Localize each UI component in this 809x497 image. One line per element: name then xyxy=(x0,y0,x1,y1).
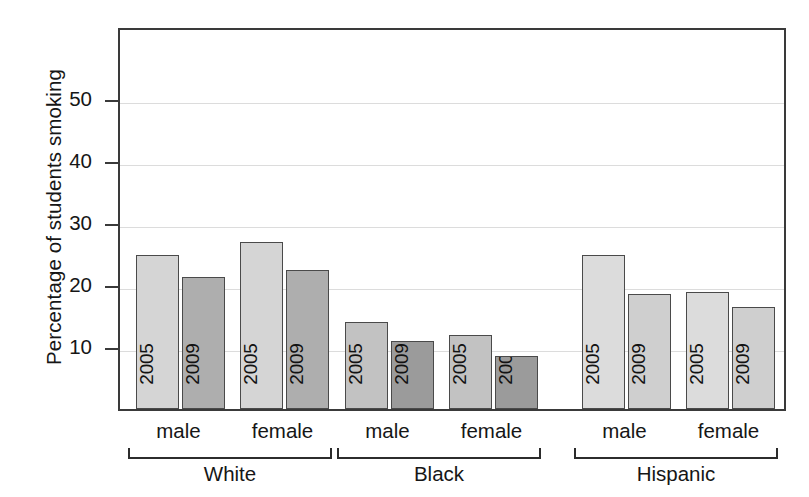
y-tick-mark-30 xyxy=(105,224,118,226)
bar-year-label: 2009 xyxy=(182,343,204,384)
group-bracket-white xyxy=(128,448,332,459)
gridline-50 xyxy=(120,103,784,104)
y-tick-label-30: 30 xyxy=(30,211,92,235)
gridline-40 xyxy=(120,165,784,166)
bar-black-male-2005[interactable]: 2005 xyxy=(345,322,388,409)
group-label-hispanic: Hispanic xyxy=(576,462,776,486)
bar-year-label: 2009 xyxy=(391,343,413,384)
bar-white-male-2005[interactable]: 2005 xyxy=(136,255,179,409)
bar-white-male-2009[interactable]: 2009 xyxy=(182,277,225,409)
y-tick-label-50: 50 xyxy=(30,87,92,111)
bar-hispanic-female-2005[interactable]: 2005 xyxy=(686,292,729,409)
bar-year-label: 2005 xyxy=(582,343,604,384)
y-tick-mark-10 xyxy=(105,348,118,350)
y-tick-label-40: 40 xyxy=(30,149,92,173)
plot-area: 2005200920052009200520092005200920052009… xyxy=(118,28,786,411)
bar-hispanic-male-2009[interactable]: 2009 xyxy=(628,294,671,409)
bar-white-female-2009[interactable]: 2009 xyxy=(286,270,329,410)
bar-year-label: 2005 xyxy=(240,343,262,384)
bar-white-female-2005[interactable]: 2005 xyxy=(240,242,283,409)
bar-chart-figure: Percentage of students smoking 102030405… xyxy=(0,0,809,497)
group-bracket-hispanic xyxy=(574,448,778,459)
gridline-30 xyxy=(120,227,784,228)
bar-year-label: 2005 xyxy=(136,343,158,384)
bar-year-label: 2005 xyxy=(686,343,708,384)
group-bracket-black xyxy=(337,448,541,459)
y-tick-mark-20 xyxy=(105,286,118,288)
group-label-white: White xyxy=(130,462,330,486)
y-tick-label-10: 10 xyxy=(30,335,92,359)
bar-black-male-2009[interactable]: 2009 xyxy=(391,341,434,409)
bar-hispanic-female-2009[interactable]: 2009 xyxy=(732,307,775,409)
bar-year-label: 2009 xyxy=(628,343,650,384)
y-tick-mark-50 xyxy=(105,100,118,102)
bar-year-label: 2005 xyxy=(345,343,367,384)
bar-year-label: 2009 xyxy=(286,343,308,384)
x-axis-sex-label-hispanic-female: female xyxy=(649,419,809,443)
bar-year-label: 2009 xyxy=(495,356,517,384)
bar-year-label: 2009 xyxy=(732,343,754,384)
bar-hispanic-male-2005[interactable]: 2005 xyxy=(582,255,625,409)
group-label-black: Black xyxy=(339,462,539,486)
bar-year-label: 2005 xyxy=(449,343,471,384)
bar-black-female-2005[interactable]: 2005 xyxy=(449,335,492,409)
y-tick-mark-40 xyxy=(105,162,118,164)
bar-black-female-2009[interactable]: 2009 xyxy=(495,356,538,409)
y-tick-label-20: 20 xyxy=(30,273,92,297)
